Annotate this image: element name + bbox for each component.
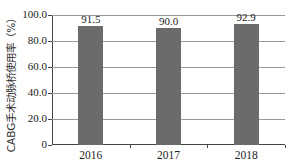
y-axis-label: CABG手术动脉桥使用率（%） <box>4 12 19 152</box>
bar-value-label: 92.9 <box>226 12 266 23</box>
bar-chart: CABG手术动脉桥使用率（%） 020.040.060.080.0100.091… <box>0 0 292 167</box>
y-tick-label: 100.0 <box>22 9 47 20</box>
plot-area: 020.040.060.080.0100.091.5201690.0201792… <box>52 15 285 145</box>
x-tick <box>285 145 286 148</box>
x-tick <box>130 145 131 148</box>
y-axis-label-container: CABG手术动脉桥使用率（%） <box>2 12 20 152</box>
y-tick-label: 80.0 <box>28 35 47 46</box>
y-axis <box>52 15 53 145</box>
bar-2018 <box>234 24 259 145</box>
y-tick-label: 20.0 <box>28 113 47 124</box>
x-category-label: 2017 <box>149 149 189 161</box>
bar-value-label: 91.5 <box>71 14 111 25</box>
bar-value-label: 90.0 <box>149 16 189 27</box>
y-tick-label: 60.0 <box>28 61 47 72</box>
bar-2017 <box>156 28 181 145</box>
y-tick <box>48 93 52 94</box>
y-tick <box>48 119 52 120</box>
y-tick <box>48 15 52 16</box>
y-tick <box>48 145 52 146</box>
y-tick-label: 0 <box>42 139 48 150</box>
bar-2016 <box>78 26 103 145</box>
y-tick-label: 40.0 <box>28 87 47 98</box>
x-tick <box>207 145 208 148</box>
x-category-label: 2016 <box>71 149 111 161</box>
x-category-label: 2018 <box>226 149 266 161</box>
y-tick <box>48 67 52 68</box>
y-tick <box>48 41 52 42</box>
